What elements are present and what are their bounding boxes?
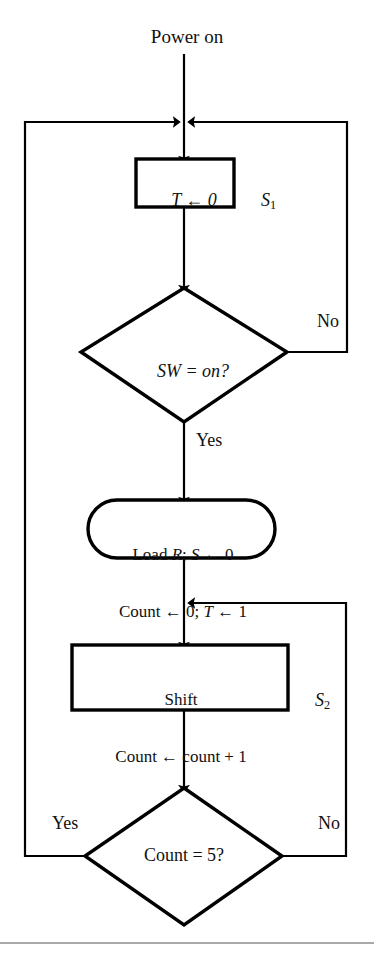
shift-line-2: Count ← count + 1 [115, 747, 246, 766]
load-line-1: Load R; S ← 0 [119, 545, 247, 564]
count5-decision-label: Count = 5? [144, 845, 224, 865]
load-line1-suffix: ← 0 [200, 545, 234, 564]
s2-state-tag: S2 [297, 670, 330, 733]
shift-line-1: Shift [115, 690, 246, 709]
edge-label-count5-yes: Yes [52, 813, 78, 833]
sw-decision-text: SW = on? [157, 361, 229, 381]
load-line1-sep: ; [182, 545, 191, 564]
s1-state-tag: S1 [243, 170, 276, 233]
s1-state-subscript: 1 [270, 199, 276, 213]
load-line1-prefix: Load [132, 545, 171, 564]
load-line2-prefix: Count ← 0; [119, 602, 204, 621]
load-line-2: Count ← 0; T ← 1 [119, 602, 247, 621]
s1-body-label: T ← 0 [153, 170, 217, 230]
power-on-label: Power on [151, 26, 223, 47]
load-line1-s: S [191, 545, 200, 564]
flowchart-page: Power on T ← 0 S1 SW = on? No Yes Load R… [0, 0, 374, 956]
shift-process-label: Shift Count ← count + 1 [115, 652, 246, 804]
s2-state-letter: S [315, 690, 324, 710]
s1-state-letter: S [261, 190, 270, 210]
load-line2-t: T [204, 602, 213, 621]
edge-label-sw-no: No [317, 311, 339, 331]
sw-decision-label: SW = on? [139, 341, 229, 401]
edge-label-count5-no: No [318, 813, 340, 833]
edge-label-sw-yes: Yes [196, 430, 222, 450]
s1-body-text: T ← 0 [171, 190, 217, 210]
load-process-label: Load R; S ← 0 Count ← 0; T ← 1 [119, 507, 247, 659]
s2-state-subscript: 2 [324, 699, 330, 713]
load-line2-suffix: ← 1 [213, 602, 247, 621]
load-line1-register: R [172, 545, 182, 564]
